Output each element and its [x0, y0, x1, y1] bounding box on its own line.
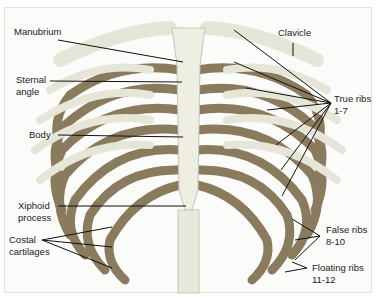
leader-line: [285, 268, 307, 272]
label-xiphoid-process: Xiphoid process: [18, 200, 51, 224]
label-manubrium: Manubrium: [14, 26, 62, 38]
label-clavicle: Clavicle: [278, 27, 311, 39]
leader-line: [292, 262, 307, 268]
label-sternal-angle: Sternal angle: [16, 74, 46, 98]
label-true-ribs: True ribs 1-7: [334, 93, 371, 117]
label-false-ribs: False ribs 8-10: [326, 224, 367, 248]
rib-cage-illustration: [0, 0, 377, 300]
label-body: Body: [29, 129, 51, 141]
rib: [197, 185, 268, 280]
rib: [109, 185, 180, 280]
rib-cage-right: [197, 68, 342, 281]
label-floating-ribs: Floating ribs 11-12: [312, 262, 364, 286]
spine: [178, 210, 199, 293]
label-costal-cartilages: Costal cartilages: [9, 234, 50, 258]
clavicle-left: [60, 28, 170, 60]
rib-cage-left: [35, 68, 180, 281]
